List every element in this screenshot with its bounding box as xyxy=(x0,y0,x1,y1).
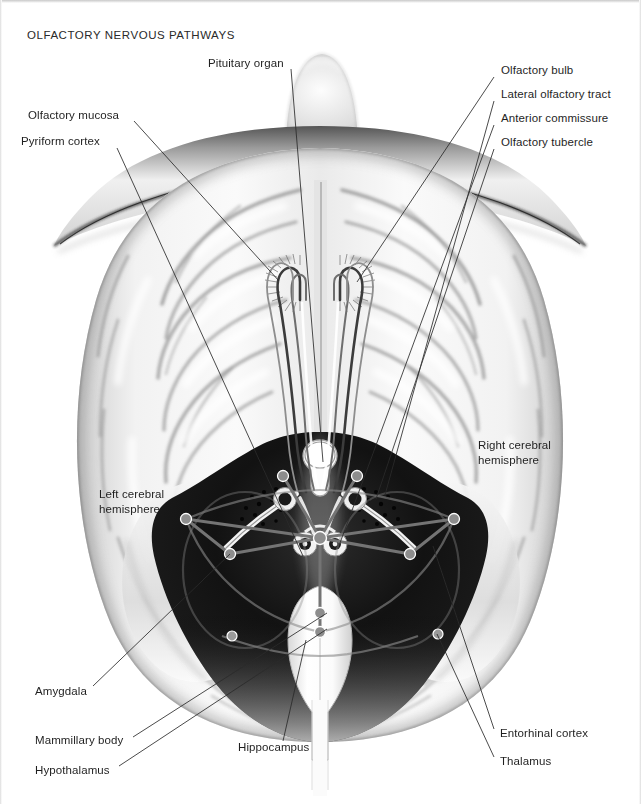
label-olfactory-mucosa: Olfactory mucosa xyxy=(28,109,119,121)
label-anterior-commissure: Anterior commissure xyxy=(501,112,608,124)
label-amygdala: Amygdala xyxy=(35,685,87,697)
label-olfactory-tubercle: Olfactory tubercle xyxy=(501,136,593,148)
figure-page: OLFACTORY NERVOUS PATHWAYS Pituitary org… xyxy=(0,0,641,804)
mammillary-body-node xyxy=(315,608,326,619)
figure-title: OLFACTORY NERVOUS PATHWAYS xyxy=(27,29,235,41)
label-thalamus: Thalamus xyxy=(500,755,551,767)
label-hypothalamus: Hypothalamus xyxy=(35,764,110,776)
label-entorhinal-cortex: Entorhinal cortex xyxy=(500,727,588,739)
label-right-cerebral-hemisphere: Right cerebral hemisphere xyxy=(478,438,574,467)
label-lateral-olfactory-tract: Lateral olfactory tract xyxy=(501,88,611,100)
label-left-cerebral-hemisphere: Left cerebral hemisphere xyxy=(99,487,191,516)
circuit-hub-node xyxy=(314,532,327,545)
label-mammillary-body: Mammillary body xyxy=(35,734,123,746)
label-pyriform-cortex: Pyriform cortex xyxy=(21,135,100,147)
label-olfactory-bulb: Olfactory bulb xyxy=(501,64,573,76)
label-pituitary-organ: Pituitary organ xyxy=(208,57,284,69)
label-hippocampus: Hippocampus xyxy=(238,741,309,753)
